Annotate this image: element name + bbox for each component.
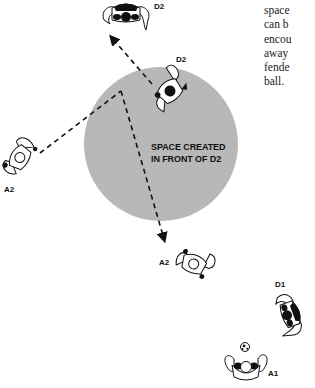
space-label-line2: IN FRONT OF D2: [151, 153, 225, 165]
label-a2-left: A2: [4, 185, 14, 194]
body-text-line: encou: [264, 32, 291, 46]
label-d2-top: D2: [154, 2, 164, 11]
body-text-line: away: [264, 46, 291, 60]
side-body-text: space can b encou away fende ball.: [264, 3, 291, 89]
soccer-ball-icon: [241, 343, 250, 352]
player-a2-left-icon: [0, 135, 39, 180]
body-text-line: fende: [264, 60, 291, 74]
body-text-line: ball.: [264, 74, 291, 88]
space-created-label: SPACE CREATED IN FRONT OF D2: [151, 141, 225, 165]
player-a2-mid-icon: [173, 244, 217, 281]
body-text-line: can b: [264, 17, 291, 31]
label-a2-mid: A2: [159, 258, 169, 267]
player-d2-top-icon: [103, 4, 149, 31]
label-d2-mid: D2: [176, 55, 186, 64]
player-d1-icon: [270, 291, 307, 339]
space-label-line1: SPACE CREATED: [151, 141, 225, 153]
player-a1-icon: [225, 355, 267, 380]
body-text-line: space: [264, 3, 291, 17]
tactics-diagram: D2 D2 A2 A2 D1 A1 SPACE CREATED IN FRONT…: [0, 0, 315, 388]
label-a1: A1: [268, 369, 278, 378]
label-d1: D1: [275, 280, 285, 289]
